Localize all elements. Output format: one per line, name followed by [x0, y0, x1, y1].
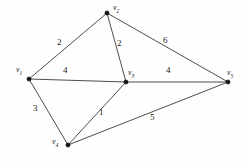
graph-edge-v4-v5: [68, 82, 228, 145]
graph-vertex-v5: [226, 80, 230, 84]
graph-vertex-v1: [27, 77, 31, 81]
edge-weight-v1-v4: 3: [33, 104, 38, 113]
graph-edge-v3-v4: [68, 82, 126, 145]
vertex-label-v2: v2: [113, 4, 119, 14]
graph-edge-v1-v3: [29, 79, 126, 82]
edge-weight-v3-v4: 1: [99, 108, 104, 117]
vertex-label-v3: v3: [128, 69, 134, 79]
vertex-label-v4: v4: [52, 138, 58, 148]
edge-weight-v1-v3: 4: [63, 66, 68, 75]
edge-weight-v2-v3: 2: [117, 39, 122, 48]
graph-vertex-v4: [66, 143, 70, 147]
vertex-label-v5: v5: [227, 69, 233, 79]
weighted-graph-figure: v1v2v3v4v5 22644315: [0, 0, 245, 163]
graph-canvas: [0, 0, 245, 163]
graph-vertex-v2: [105, 11, 109, 15]
vertex-label-v1: v1: [16, 66, 22, 76]
edge-weight-v3-v5: 4: [166, 66, 171, 75]
edge-weight-v4-v5: 5: [150, 113, 155, 122]
graph-vertex-v3: [124, 80, 128, 84]
edge-weight-v2-v5: 6: [163, 36, 168, 45]
graph-edge-v1-v2: [29, 13, 107, 79]
edge-weight-v1-v2: 2: [57, 38, 62, 47]
